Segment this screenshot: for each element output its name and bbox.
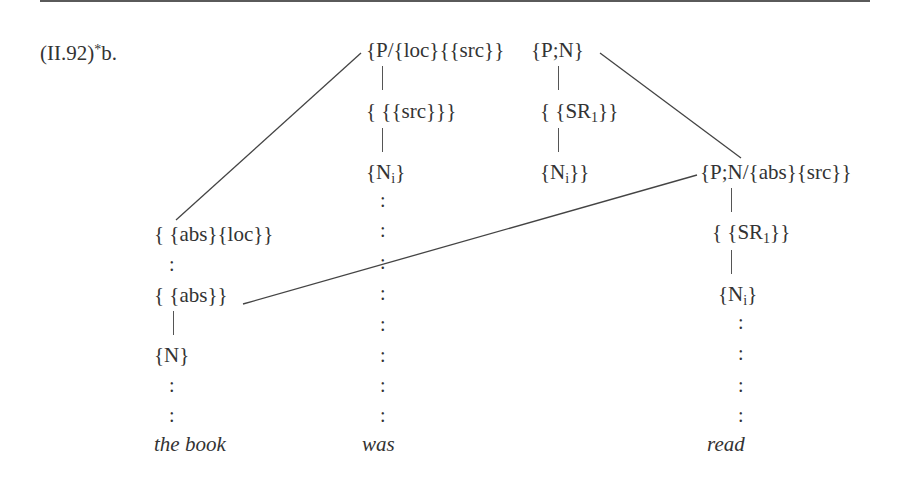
colon-was-1: : — [380, 190, 386, 210]
colon-was-7: : — [380, 375, 386, 395]
vbar-book-1 — [173, 311, 174, 335]
vbar-read-1 — [731, 188, 732, 212]
edge-pn-to-read — [600, 53, 741, 158]
vbar-was-2 — [382, 128, 383, 152]
node-book-low: {N} — [154, 343, 189, 367]
colon-read-1: : — [738, 312, 744, 332]
colon-was-2: : — [380, 220, 386, 240]
colon-book-3: : — [169, 405, 175, 425]
node-pn-mid: { {SR1}} — [540, 99, 618, 130]
vbar-was-1 — [382, 66, 383, 90]
colon-was-4: : — [380, 283, 386, 303]
word-was: was — [362, 432, 395, 456]
colon-book-1: : — [169, 254, 175, 274]
node-top-right: {P;N} — [531, 38, 584, 62]
node-was-low: {Ni} — [366, 160, 405, 191]
word-the-book: the book — [154, 432, 226, 456]
node-read-top: {P;N/{abs}{src}} — [700, 160, 851, 184]
vbar-read-2 — [731, 250, 732, 274]
node-read-mid: { {SR1}} — [712, 220, 790, 251]
colon-was-5: : — [380, 314, 386, 334]
edge-top-to-book — [176, 53, 361, 220]
node-pn-low: {Ni}} — [540, 160, 589, 191]
vbar-pn-1 — [558, 66, 559, 90]
node-book-top: { {abs}{loc}} — [154, 222, 273, 246]
node-read-low: {Ni} — [718, 282, 757, 313]
tree-edges — [0, 0, 911, 502]
word-read: read — [707, 432, 745, 456]
edge-read-to-abs — [243, 175, 697, 304]
node-was-mid: { {{src}}} — [366, 99, 456, 123]
colon-was-8: : — [380, 405, 386, 425]
colon-was-3: : — [380, 252, 386, 272]
colon-read-3: : — [738, 375, 744, 395]
colon-read-4: : — [738, 405, 744, 425]
node-top-left: {P/{loc}{{src}} — [366, 38, 504, 62]
colon-read-2: : — [738, 343, 744, 363]
vbar-pn-2 — [558, 128, 559, 152]
colon-was-6: : — [380, 345, 386, 365]
node-book-mid: { {abs}} — [154, 283, 228, 307]
colon-book-2: : — [169, 375, 175, 395]
